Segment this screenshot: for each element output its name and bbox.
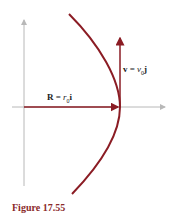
- position-label: R = r0i: [47, 92, 72, 104]
- velocity-label: v = v0j: [123, 64, 147, 76]
- trajectory-curve-smooth: [69, 14, 120, 194]
- figure-caption: Figure 17.55: [12, 202, 65, 213]
- diagram-canvas: [0, 0, 176, 222]
